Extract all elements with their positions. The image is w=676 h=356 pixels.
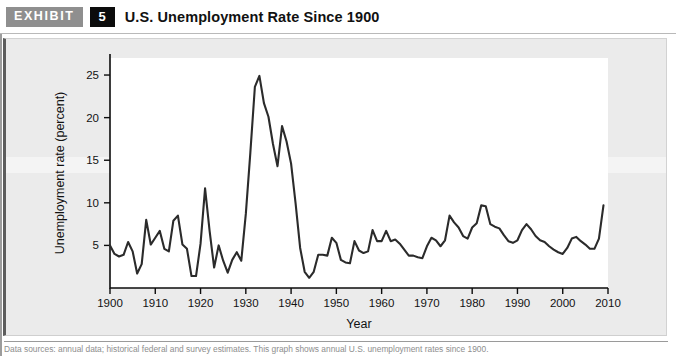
exhibit-figure-page: EXHIBIT 5 U.S. Unemployment Rate Since 1… — [0, 0, 676, 356]
figure-panel — [3, 38, 667, 336]
exhibit-badge: EXHIBIT — [6, 7, 83, 27]
page-left-spine — [0, 0, 2, 356]
page-title: U.S. Unemployment Rate Since 1900 — [125, 9, 380, 25]
exhibit-number-badge: 5 — [90, 7, 115, 27]
header-divider — [0, 33, 676, 34]
caption-divider — [4, 341, 668, 342]
figure-caption: Data sources: annual data; historical fe… — [4, 344, 672, 354]
exhibit-header: EXHIBIT 5 U.S. Unemployment Rate Since 1… — [0, 0, 676, 34]
panel-glare — [6, 157, 666, 173]
